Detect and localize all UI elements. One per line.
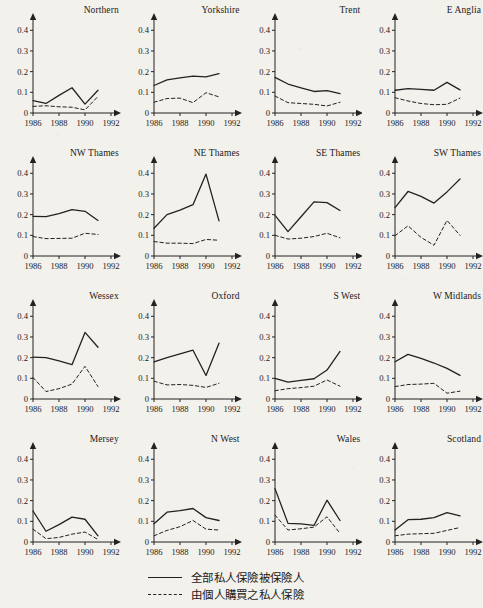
- x-tick-label: 1986: [266, 118, 284, 128]
- y-tick-label: 0.2: [138, 353, 149, 363]
- y-tick-label: 0.4: [138, 25, 149, 35]
- y-tick-label: 0.4: [17, 311, 28, 321]
- chart-panel: 00.10.20.30.41986198819901992S West: [242, 286, 363, 429]
- x-tick-label: 1988: [413, 547, 430, 557]
- y-tick-label: 0: [386, 537, 390, 547]
- y-tick-label: 0.2: [17, 353, 28, 363]
- chart-panel: 00.10.20.30.41986198819901992Yorkshire: [121, 0, 242, 143]
- x-tick-label: 1988: [171, 118, 188, 128]
- x-axis-arrow-icon: [114, 539, 121, 545]
- x-axis-arrow-icon: [356, 539, 363, 545]
- x-tick-label: 1988: [292, 404, 309, 414]
- y-tick-label: 0.3: [380, 475, 391, 485]
- x-tick-label: 1990: [197, 404, 214, 414]
- y-tick-label: 0: [386, 108, 390, 118]
- x-tick-label: 1988: [50, 404, 67, 414]
- chart-panel: 00.10.20.30.41986198819901992Oxford: [121, 286, 242, 429]
- x-axis-arrow-icon: [476, 253, 483, 259]
- x-tick-label: 1990: [318, 404, 335, 414]
- panel-title: S West: [242, 291, 361, 301]
- chart-panel: 00.10.20.30.41986198819901992W Midlands: [362, 286, 483, 429]
- y-tick-label: 0.1: [259, 373, 270, 383]
- series-line-solid: [395, 179, 460, 208]
- x-axis-arrow-icon: [356, 396, 363, 402]
- panel-title: NE Thames: [121, 148, 240, 158]
- x-tick-label: 1992: [465, 547, 482, 557]
- chart-panel: 00.10.20.30.41986198819901992Wessex: [0, 286, 121, 429]
- y-tick-label: 0.4: [380, 454, 391, 464]
- y-tick-label: 0: [24, 537, 28, 547]
- y-tick-label: 0.1: [380, 516, 391, 526]
- y-tick-label: 0.2: [17, 210, 28, 220]
- chart-panel: 00.10.20.30.41986198819901992E Anglia: [362, 0, 483, 143]
- x-tick-label: 1986: [266, 404, 284, 414]
- y-tick-label: 0.3: [17, 475, 28, 485]
- panel-title: Northern: [0, 5, 119, 15]
- y-tick-label: 0.3: [380, 189, 391, 199]
- chart-panel: 00.10.20.30.41986198819901992Trent: [242, 0, 363, 143]
- x-axis-arrow-icon: [235, 110, 242, 116]
- chart-panel: 00.10.20.30.41986198819901992NE Thames: [121, 143, 242, 286]
- x-tick-label: 1992: [465, 118, 482, 128]
- x-tick-label: 1992: [102, 404, 119, 414]
- y-tick-label: 0.2: [138, 210, 149, 220]
- x-tick-label: 1992: [102, 118, 119, 128]
- series-line-solid: [395, 354, 460, 375]
- x-tick-label: 1992: [465, 404, 482, 414]
- series-line-dashed: [154, 239, 219, 243]
- legend-swatch-dashed-icon: [148, 594, 182, 595]
- y-tick-label: 0.2: [138, 67, 149, 77]
- y-tick-label: 0.1: [138, 373, 149, 383]
- y-tick-label: 0.3: [138, 332, 149, 342]
- x-tick-label: 1986: [387, 547, 405, 557]
- panel-plot: 00.10.20.30.41986198819901992: [0, 143, 121, 286]
- y-tick-label: 0.1: [138, 516, 149, 526]
- y-tick-label: 0.4: [380, 311, 391, 321]
- series-line-solid: [275, 77, 340, 93]
- x-axis-arrow-icon: [235, 539, 242, 545]
- y-tick-label: 0.3: [259, 475, 270, 485]
- series-line-solid: [33, 210, 98, 221]
- series-line-dashed: [275, 96, 340, 106]
- y-tick-label: 0: [265, 394, 269, 404]
- x-tick-label: 1986: [266, 547, 284, 557]
- y-tick-label: 0.1: [259, 230, 270, 240]
- x-tick-label: 1990: [197, 547, 214, 557]
- panel-plot: 00.10.20.30.41986198819901992: [0, 286, 121, 429]
- x-axis-arrow-icon: [476, 110, 483, 116]
- y-tick-label: 0.2: [380, 496, 391, 506]
- y-tick-label: 0: [265, 251, 269, 261]
- x-tick-label: 1990: [197, 261, 214, 271]
- legend: 全部私人保險被保險人 由個人購買之私人保險: [0, 566, 483, 608]
- series-line-dashed: [33, 529, 98, 539]
- panel-plot: 00.10.20.30.41986198819901992: [0, 429, 121, 572]
- y-tick-label: 0.4: [17, 454, 28, 464]
- y-tick-label: 0.1: [17, 230, 28, 240]
- panel-plot: 00.10.20.30.41986198819901992: [362, 429, 483, 572]
- x-tick-label: 1990: [76, 547, 93, 557]
- series-line-dashed: [275, 233, 340, 239]
- legend-entry-all-private-insured: 全部私人保險被保險人: [148, 569, 304, 585]
- x-tick-label: 1992: [344, 404, 361, 414]
- panel-plot: 00.10.20.30.41986198819901992: [121, 429, 242, 572]
- y-tick-label: 0.3: [259, 332, 270, 342]
- x-tick-label: 1990: [76, 118, 93, 128]
- y-tick-label: 0.4: [259, 168, 270, 178]
- panel-title: SE Thames: [242, 148, 361, 158]
- panel-title: Scotland: [362, 434, 481, 444]
- x-axis-arrow-icon: [114, 396, 121, 402]
- x-axis-arrow-icon: [476, 539, 483, 545]
- panel-title: Yorkshire: [121, 5, 240, 15]
- panel-title: NW Thames: [0, 148, 119, 158]
- x-tick-label: 1986: [145, 547, 163, 557]
- y-tick-label: 0.2: [259, 67, 270, 77]
- y-tick-label: 0.4: [380, 168, 391, 178]
- panel-plot: 00.10.20.30.41986198819901992: [362, 286, 483, 429]
- panel-title: Oxford: [121, 291, 240, 301]
- panel-title: Trent: [242, 5, 361, 15]
- series-line-solid: [154, 74, 219, 86]
- y-tick-label: 0.4: [380, 25, 391, 35]
- x-tick-label: 1986: [266, 261, 284, 271]
- y-tick-label: 0: [144, 394, 148, 404]
- y-tick-label: 0: [144, 108, 148, 118]
